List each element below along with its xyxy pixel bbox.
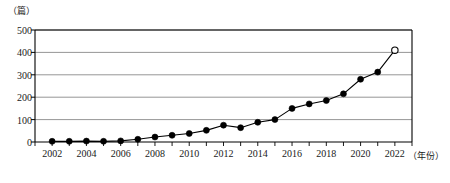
x-axis-tick-label: 2022: [385, 148, 405, 159]
x-axis-tick-label: 2006: [111, 148, 131, 159]
x-axis-tick-label: 2012: [214, 148, 234, 159]
x-axis-tick-label: 2010: [179, 148, 199, 159]
x-axis-tick-label: 2004: [76, 148, 96, 159]
chart-figure: （篇） 5004003002001000 2002200420062008201…: [0, 0, 450, 183]
x-axis-tick-label: 2016: [282, 148, 302, 159]
x-axis-tick-label: 2002: [42, 148, 62, 159]
x-axis-tick-labels: 2002200420062008201020122014201620182020…: [0, 0, 450, 183]
x-axis-tick-label: 2018: [316, 148, 336, 159]
x-axis-tick-label: 2008: [145, 148, 165, 159]
x-axis-unit-label: （年份）: [408, 149, 444, 162]
x-axis-tick-label: 2020: [351, 148, 371, 159]
x-axis-tick-label: 2014: [248, 148, 268, 159]
